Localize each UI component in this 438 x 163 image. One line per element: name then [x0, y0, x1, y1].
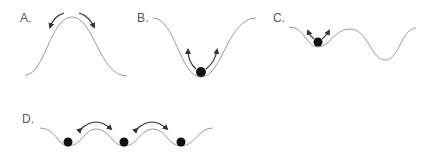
ball-icon [64, 138, 73, 147]
arrow-left-icon [50, 13, 64, 27]
ball-icon [120, 138, 129, 147]
panel-b [153, 18, 256, 77]
ball-icon [314, 38, 323, 47]
double-arrow-icon [137, 122, 167, 129]
double-arrow-icon [81, 122, 111, 129]
energy-landscape-diagram [0, 0, 438, 163]
hill-curve [25, 17, 127, 76]
ball-icon [177, 138, 186, 147]
arrow-right-icon [79, 13, 94, 27]
panel-d [40, 122, 213, 147]
arrow-up-left-icon [308, 31, 314, 39]
well-curve [153, 18, 256, 77]
arrow-up-left-icon [188, 50, 196, 69]
arrow-up-right-icon [322, 31, 329, 39]
ball-icon [196, 67, 206, 77]
panel-c [289, 27, 416, 60]
panel-a [25, 13, 127, 76]
